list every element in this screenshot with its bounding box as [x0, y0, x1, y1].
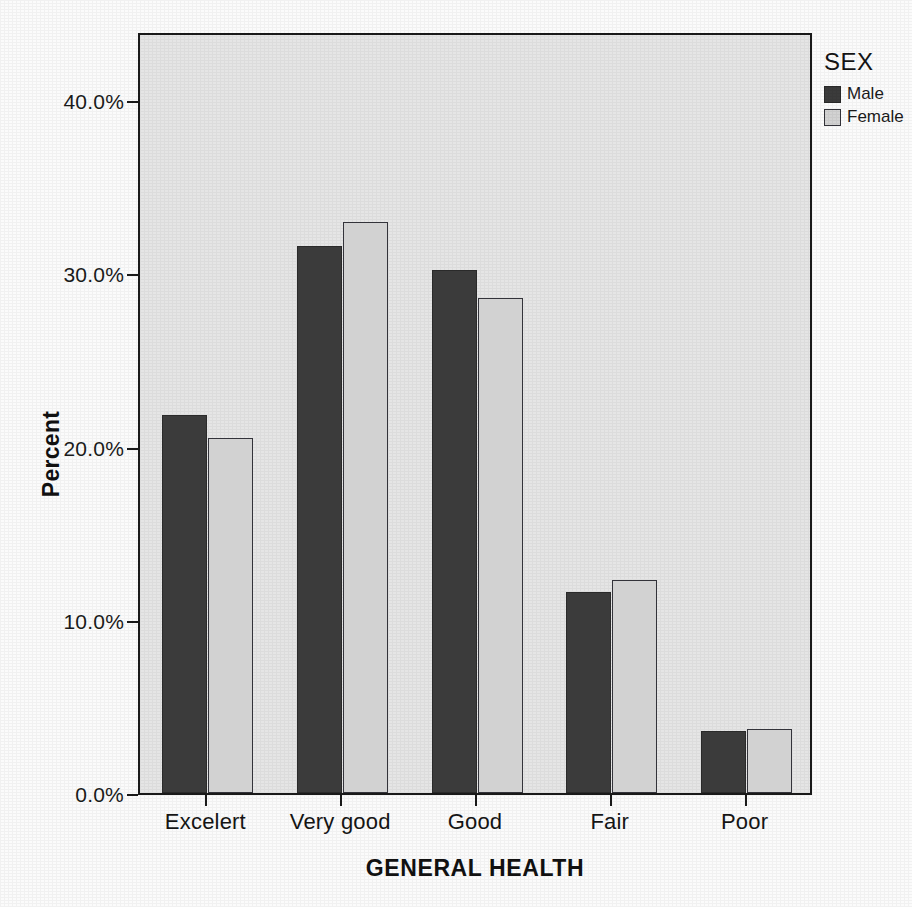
male-swatch-icon [824, 86, 841, 103]
female-swatch-icon [824, 109, 841, 126]
y-tick-mark [127, 101, 138, 103]
x-tick-label: Very good [290, 809, 391, 835]
bars-container [140, 35, 810, 793]
legend-items: MaleFemale [824, 84, 912, 127]
y-tick-label: 20.0% [14, 437, 124, 461]
bar-female-very-good[interactable] [343, 222, 388, 794]
x-tick-label: Poor [721, 809, 768, 835]
legend-item-label: Male [847, 84, 884, 104]
plot-area [138, 33, 812, 795]
bar-female-excelert[interactable] [208, 438, 253, 793]
y-tick-label: 0.0% [14, 783, 124, 807]
bar-group [566, 35, 657, 793]
bar-male-excelert[interactable] [162, 415, 207, 793]
bar-group [701, 35, 792, 793]
x-tick-mark [745, 795, 747, 806]
x-tick-label: Fair [590, 809, 629, 835]
x-axis-title: GENERAL HEALTH [138, 855, 812, 882]
legend-item-label: Female [847, 107, 904, 127]
y-tick-label: 10.0% [14, 610, 124, 634]
bar-group [162, 35, 253, 793]
legend-title: SEX [824, 48, 912, 76]
bar-male-very-good[interactable] [297, 246, 342, 793]
y-tick-mark [127, 274, 138, 276]
y-tick-mark [127, 448, 138, 450]
x-tick-mark [475, 795, 477, 806]
x-tick-label: Good [448, 809, 503, 835]
bar-female-fair[interactable] [612, 580, 657, 793]
chart-page: Percent 0.0%10.0%20.0%30.0%40.0% Exceler… [0, 0, 912, 907]
bar-female-good[interactable] [478, 298, 523, 793]
x-tick-label: Excelert [165, 809, 246, 835]
bar-group [297, 35, 388, 793]
x-tick-mark [610, 795, 612, 806]
y-tick-label: 30.0% [14, 263, 124, 287]
x-tick-mark [340, 795, 342, 806]
bar-female-poor[interactable] [747, 729, 792, 793]
legend: SEX MaleFemale [824, 48, 912, 130]
bar-group [432, 35, 523, 793]
y-tick-mark [127, 621, 138, 623]
x-tick-mark [205, 795, 207, 806]
legend-item-female[interactable]: Female [824, 107, 912, 127]
bar-male-good[interactable] [432, 270, 477, 793]
bar-male-poor[interactable] [701, 731, 746, 793]
y-tick-mark [127, 794, 138, 796]
bar-male-fair[interactable] [566, 592, 611, 793]
y-tick-label: 40.0% [14, 90, 124, 114]
legend-item-male[interactable]: Male [824, 84, 912, 104]
